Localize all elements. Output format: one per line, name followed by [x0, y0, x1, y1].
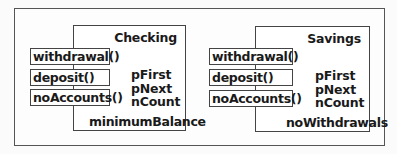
field: pNext — [315, 83, 364, 97]
field: pFirst — [315, 69, 364, 83]
class-title: Checking — [114, 30, 177, 45]
class-fields: pFirst pNext nCount — [131, 68, 180, 109]
class-extra-field: minimumBalance — [89, 114, 206, 129]
class-title: Savings — [307, 31, 361, 46]
method-noaccounts: noAccounts() — [209, 90, 293, 107]
method-noaccounts: noAccounts() — [30, 89, 110, 106]
method-deposit: deposit() — [30, 69, 110, 86]
method-withdrawal: withdrawal() — [30, 48, 110, 65]
field: pFirst — [131, 68, 180, 82]
method-withdrawal: withdrawal() — [209, 48, 293, 65]
field: pNext — [131, 82, 180, 96]
class-extra-field: noWithdrawals — [286, 115, 388, 130]
method-deposit: deposit() — [209, 69, 293, 86]
class-fields: pFirst pNext nCount — [315, 69, 364, 110]
field: nCount — [131, 95, 180, 109]
field: nCount — [315, 96, 364, 110]
